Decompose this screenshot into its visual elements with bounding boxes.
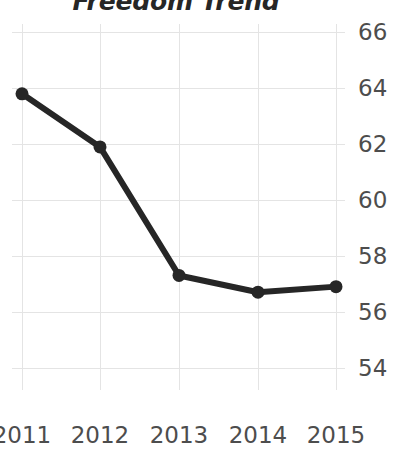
y-axis-tick-label: 58 — [358, 245, 408, 268]
x-axis-tick-label: 2011 — [0, 424, 62, 447]
y-axis-tick-label: 62 — [358, 133, 408, 156]
y-axis-tick-label: 66 — [358, 21, 408, 44]
y-axis-tick-label: 54 — [358, 357, 408, 380]
x-axis-tick-label: 2015 — [296, 424, 376, 447]
chart-title: Freedom Trend — [0, 0, 352, 16]
y-axis-tick-label: 64 — [358, 77, 408, 100]
plot-area — [12, 24, 345, 390]
series-line — [22, 94, 336, 292]
y-axis-tick-label: 56 — [358, 301, 408, 324]
x-axis-tick-label: 2012 — [60, 424, 140, 447]
x-axis-tick-label: 2013 — [139, 424, 219, 447]
data-point-marker — [94, 140, 107, 153]
data-point-marker — [173, 269, 186, 282]
data-point-marker — [252, 286, 265, 299]
data-point-marker — [16, 87, 29, 100]
x-axis-tick-label: 2014 — [218, 424, 298, 447]
y-axis-tick-label: 60 — [358, 189, 408, 212]
chart-container: Freedom Trend 54565860626466 20112012201… — [0, 0, 410, 460]
data-point-marker — [330, 280, 343, 293]
line-series — [12, 24, 345, 390]
